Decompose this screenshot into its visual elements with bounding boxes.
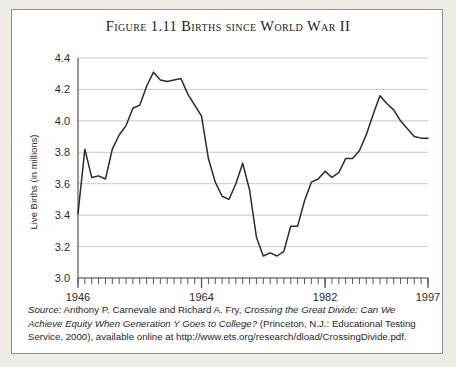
figure-card: Figure 1.11 Births since World War II 3.… [11,9,443,354]
y-tick-label: 4.2 [55,83,70,95]
y-tick-label: 3.6 [55,178,70,190]
y-axis-label: Live Births (in millions) [28,134,39,229]
x-tick-label: 1997 [416,291,440,303]
x-tick-label: 1982 [313,291,337,303]
y-tick-label: 4.4 [55,52,70,64]
source-note: Source: Anthony P. Carnevale and Richard… [28,303,430,344]
y-tick-label: 3.8 [55,146,70,158]
source-authors: Anthony P. Carnevale and Richard A. Fry, [61,304,244,315]
gridlines [78,58,428,278]
y-tick-label: 3.0 [55,272,70,284]
y-tick-label: 4.0 [55,115,70,127]
y-tick-label: 3.4 [55,209,70,221]
y-axis-tick-labels: 3.03.23.43.63.84.04.24.4 [55,52,70,284]
x-axis-minor-ticks [78,278,428,284]
source-prefix: Source: [28,304,61,315]
x-tick-label: 1946 [66,291,90,303]
y-tick-label: 3.2 [55,241,70,253]
births-series-line [78,72,428,256]
x-tick-label: 1964 [189,291,213,303]
x-axis-major-ticks [78,278,428,288]
x-axis-tick-labels: 1946196419821997 [66,291,440,303]
